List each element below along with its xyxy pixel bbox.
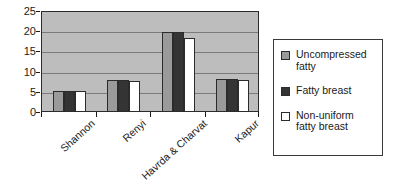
bar-havrda-charvat-non-uniform-fatty-breast [184,38,195,111]
y-tick-label: 0 [10,107,36,117]
bar-havrda-charvat-fatty-breast [173,32,184,111]
legend-swatch-icon [281,112,290,121]
bar-shannon-non-uniform-fatty-breast [75,91,86,111]
y-tick-label: 15 [10,46,36,56]
chart-legend: Uncompressed fatty Fatty breast Non-unif… [273,39,383,156]
bar-shannon-uncompressed-fatty [53,91,64,111]
legend-swatch-icon [281,87,290,96]
bar-chart-figure: 25 20 15 10 5 0 [0,0,403,194]
bar-group-havrda-charvat [151,12,206,111]
y-tick-label: 10 [10,67,36,77]
x-axis: Shannon Renyi Havrda & Charvat Kapur [41,117,271,187]
legend-swatch-icon [281,51,290,60]
y-tick-label: 5 [10,87,36,97]
legend-item-fatty-breast: Fatty breast [281,85,376,97]
legend-item-uncompressed-fatty: Uncompressed fatty [281,49,376,72]
legend-item-non-uniform-fatty-breast: Non-uniform fatty breast [281,110,376,133]
bar-havrda-charvat-uncompressed-fatty [162,32,173,111]
bar-renyi-non-uniform-fatty-breast [129,81,140,111]
y-tick-label: 25 [10,6,36,16]
legend-label: Non-uniform fatty breast [296,110,376,133]
bar-group-shannon [42,12,97,111]
y-tick-label: 20 [10,26,36,36]
y-axis: 25 20 15 10 5 0 [8,11,36,112]
legend-label: Uncompressed fatty [296,49,376,72]
bar-shannon-fatty-breast [64,91,75,111]
legend-label: Fatty breast [296,85,351,97]
